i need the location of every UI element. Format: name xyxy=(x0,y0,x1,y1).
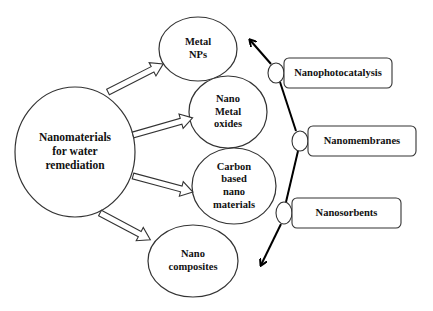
central-node-label: Nanomaterials for water remediation xyxy=(15,87,135,217)
axis-segment-1 xyxy=(280,82,296,131)
nano-composites-line-2: composites xyxy=(169,261,218,274)
central-line-2: for water xyxy=(52,145,97,159)
nano-composites-label: Nano composites xyxy=(148,225,238,297)
nanomembranes-label: Nanomembranes xyxy=(308,126,416,156)
block-arrow-to-nano-metal-oxides xyxy=(131,111,195,143)
nano-metal-oxides-line-1: Nano xyxy=(216,93,240,106)
connector-circle-nanosorbents xyxy=(276,202,292,224)
central-line-3: remediation xyxy=(45,159,104,173)
connector-circle-nanophotocatalysis xyxy=(268,63,284,83)
nano-metal-oxides-line-3: oxides xyxy=(214,118,242,131)
axis-segment-bottom xyxy=(261,224,281,265)
carbon-based-label: Carbon based nano materials xyxy=(192,148,276,224)
carbon-based-line-4: materials xyxy=(213,199,255,212)
block-arrow-to-carbon-based xyxy=(131,169,195,200)
nano-composites-line-1: Nano xyxy=(181,248,205,261)
nanomembranes-text: Nanomembranes xyxy=(324,135,400,148)
carbon-based-line-2: based xyxy=(221,173,247,186)
axis-segment-top xyxy=(250,40,271,64)
metal-nps-line-1: Metal xyxy=(185,36,211,49)
carbon-based-line-3: nano xyxy=(223,186,245,199)
connector-circle-nanomembranes xyxy=(292,131,308,151)
axis-segment-2 xyxy=(286,151,298,202)
carbon-based-line-1: Carbon xyxy=(217,161,251,174)
metal-nps-line-2: NPs xyxy=(189,49,207,62)
nanosorbents-text: Nanosorbents xyxy=(316,207,378,220)
central-line-1: Nanomaterials xyxy=(39,131,111,145)
nanosorbents-label: Nanosorbents xyxy=(292,198,401,228)
metal-nps-label: Metal NPs xyxy=(159,17,237,81)
nano-metal-oxides-line-2: Metal xyxy=(215,106,241,119)
nano-metal-oxides-label: Nano Metal oxides xyxy=(189,76,267,148)
nanophotocatalysis-text: Nanophotocatalysis xyxy=(294,67,382,80)
nanophotocatalysis-label: Nanophotocatalysis xyxy=(284,58,392,88)
